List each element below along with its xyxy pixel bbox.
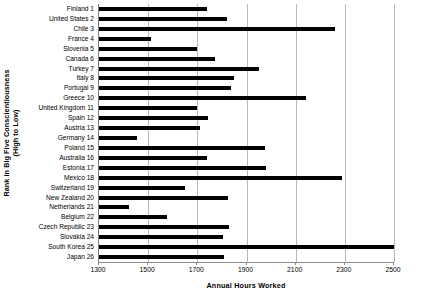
y-category-label: United States 2: [20, 15, 94, 22]
bar: [99, 76, 234, 80]
x-tick-label: 1300: [78, 266, 118, 274]
bar: [99, 116, 208, 120]
y-axis-title-line2: (High to Low): [11, 69, 20, 196]
x-tick-mark-1900: [246, 262, 247, 265]
gridline-2300: [345, 4, 346, 262]
gridline-1500: [148, 4, 149, 262]
y-category-label: Poland 15: [20, 144, 94, 151]
x-tick-label: 2500: [373, 266, 413, 274]
plot-area: [98, 4, 394, 262]
y-category-label: New Zealand 20: [20, 194, 94, 201]
bar: [99, 96, 306, 100]
gridline-2100: [296, 4, 297, 262]
y-category-label: Portugal 9: [20, 84, 94, 91]
y-category-label: Slovakia 24: [20, 233, 94, 240]
chart-figure: Rank in Big Five Conscientiousness (High…: [0, 0, 425, 299]
y-category-label: Mexico 18: [20, 174, 94, 181]
bar: [99, 86, 231, 90]
y-category-label: Greece 10: [20, 94, 94, 101]
y-category-label: United Kingdom 11: [20, 104, 94, 111]
bar: [99, 166, 266, 170]
x-tick-mark-2300: [344, 262, 345, 265]
x-tick-mark-2500: [393, 262, 394, 265]
x-tick-label: 2300: [324, 266, 364, 274]
y-category-label: Japan 26: [20, 253, 94, 260]
y-category-label: Austria 13: [20, 124, 94, 131]
x-tick-mark-1300: [98, 262, 99, 265]
y-category-label: Canada 6: [20, 55, 94, 62]
y-category-label: France 4: [20, 35, 94, 42]
x-tick-mark-1700: [196, 262, 197, 265]
bar: [99, 17, 227, 21]
bar: [99, 37, 151, 41]
bar: [99, 176, 342, 180]
x-tick-mark-1500: [147, 262, 148, 265]
bar: [99, 136, 137, 140]
bar: [99, 106, 197, 110]
y-axis-title: Rank in Big Five Conscientiousness (High…: [0, 0, 22, 266]
gridline-2500: [394, 4, 395, 262]
y-category-label: Netherlands 21: [20, 203, 94, 210]
bar: [99, 27, 335, 31]
y-category-label: Belgium 22: [20, 213, 94, 220]
y-category-label: Turkey 7: [20, 65, 94, 72]
x-tick-label: 1500: [127, 266, 167, 274]
y-category-label: Italy 8: [20, 74, 94, 81]
y-axis-title-text: Rank in Big Five Conscientiousness (High…: [2, 69, 20, 196]
y-category-label: Switzerland 19: [20, 184, 94, 191]
x-axis-title: Annual Hours Worked: [98, 281, 394, 290]
y-category-label: Estonia 17: [20, 164, 94, 171]
bar: [99, 146, 265, 150]
x-tick-label: 2100: [275, 266, 315, 274]
y-category-label: Germany 14: [20, 134, 94, 141]
bar: [99, 205, 129, 209]
x-tick-label: 1900: [226, 266, 266, 274]
x-tick-mark-2100: [295, 262, 296, 265]
y-category-label: Finland 1: [20, 5, 94, 12]
bar: [99, 225, 229, 229]
bar: [99, 245, 394, 249]
bar: [99, 126, 200, 130]
y-category-label: Chile 3: [20, 25, 94, 32]
y-category-label: Czech Republic 23: [20, 223, 94, 230]
gridline-1900: [247, 4, 248, 262]
y-category-label: Australia 16: [20, 154, 94, 161]
gridline-1700: [197, 4, 198, 262]
bar: [99, 215, 167, 219]
bar: [99, 47, 197, 51]
bar: [99, 67, 259, 71]
bar: [99, 255, 224, 259]
bar: [99, 156, 207, 160]
y-axis-category-labels: Finland 1United States 2Chile 3France 4S…: [22, 0, 96, 266]
bar: [99, 57, 215, 61]
y-category-label: Spain 12: [20, 114, 94, 121]
bar: [99, 186, 185, 190]
y-category-label: South Korea 25: [20, 243, 94, 250]
x-tick-label: 1700: [176, 266, 216, 274]
y-category-label: Slovenia 5: [20, 45, 94, 52]
bar: [99, 7, 207, 11]
bar: [99, 196, 228, 200]
bar: [99, 235, 223, 239]
